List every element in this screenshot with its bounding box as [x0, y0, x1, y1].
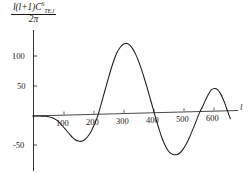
- x-tick-label-300: 300: [116, 116, 129, 126]
- x-tick-label-200: 200: [86, 117, 99, 127]
- figure-container: l(l+1)CSTE,l 2π 100 50 -50 100 200 300 4…: [0, 0, 249, 173]
- y-tick-label-neg50: -50: [13, 140, 24, 150]
- x-tick-label-500: 500: [176, 114, 189, 124]
- x-tick-label-600: 600: [206, 113, 219, 123]
- y-tick-label-100: 100: [12, 51, 25, 61]
- plot-area: [0, 0, 249, 173]
- x-tick-label-100: 100: [56, 118, 69, 128]
- x-axis-name-label: l: [240, 102, 242, 112]
- y-tick-label-50: 50: [17, 81, 26, 91]
- data-curve-te-spectrum: [34, 44, 230, 155]
- x-tick-label-400: 400: [146, 115, 159, 125]
